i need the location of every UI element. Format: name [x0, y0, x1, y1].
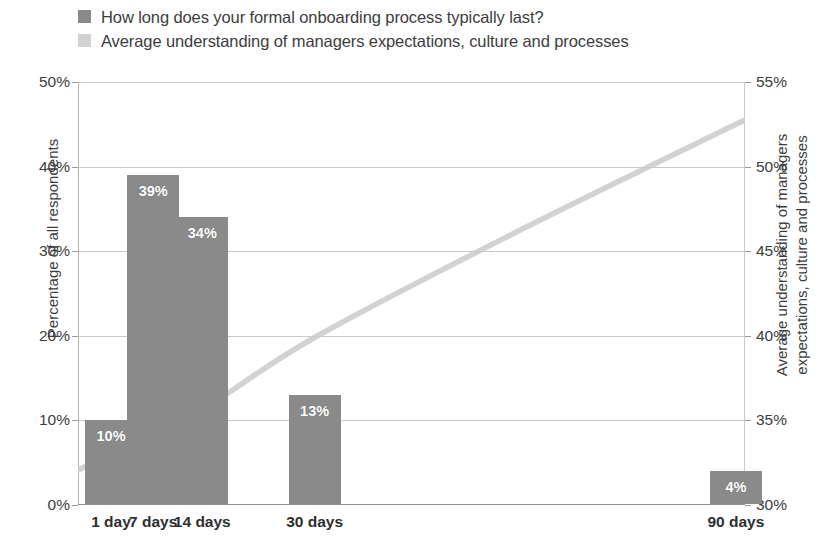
tickmark-right [745, 505, 751, 506]
gridline-left-50% [78, 82, 745, 83]
dual-axis-chart: How long does your formal onboarding pro… [0, 0, 837, 542]
tickmark-right [745, 420, 751, 421]
y-axis-right-tick-label: 35% [756, 412, 808, 428]
x-axis-ticks: 1 day7 days14 days30 days90 days [0, 513, 837, 537]
y-axis-right-tick-label: 50% [756, 159, 808, 175]
line-series-swatch-icon [78, 34, 91, 47]
y-axis-right-ticks: 30%35%40%45%50%55% [756, 0, 812, 542]
x-axis-tick-label: 14 days [174, 513, 231, 531]
y-axis-right-tick-label: 45% [756, 243, 808, 259]
y-axis-left-ticks: 0%10%20%30%40%50% [14, 0, 70, 542]
tickmark-right [745, 82, 751, 83]
tickmark-right [745, 336, 751, 337]
y-axis-right-tick-label: 30% [756, 497, 808, 513]
tickmark-left [72, 420, 78, 421]
y-axis-right-tick-label: 40% [756, 328, 808, 344]
x-axis-tick-label: 1 day [91, 513, 131, 531]
y-axis-right-tick-label: 55% [756, 74, 808, 90]
tickmark-right [745, 251, 751, 252]
y-axis-left-tick-label: 30% [18, 243, 70, 259]
chart-legend: How long does your formal onboarding pro… [78, 6, 629, 54]
tickmark-left [72, 336, 78, 337]
tickmark-left [72, 505, 78, 506]
x-axis-tick-label: 90 days [707, 513, 764, 531]
legend-label-line: Average understanding of managers expect… [101, 30, 629, 52]
legend-item-line[interactable]: Average understanding of managers expect… [78, 30, 629, 52]
tickmark-left [72, 167, 78, 168]
tickmark-left [72, 251, 78, 252]
bar-value-label: 34% [188, 225, 217, 241]
y-axis-left-tick-label: 20% [18, 328, 70, 344]
tickmark-left [72, 82, 78, 83]
x-axis-tick-label: 7 days [129, 513, 177, 531]
bar-value-label: 4% [725, 479, 746, 495]
bar-value-label: 39% [139, 183, 168, 199]
bar-value-label: 13% [300, 403, 329, 419]
y-axis-left-tick-label: 40% [18, 159, 70, 175]
y-axis-left-tick-label: 50% [18, 74, 70, 90]
bar-7-days[interactable] [127, 175, 179, 504]
bar-series-swatch-icon [78, 10, 91, 23]
y-axis-left-tick-label: 0% [18, 497, 70, 513]
bar-14-days[interactable] [176, 217, 228, 504]
x-axis-tick-label: 30 days [286, 513, 343, 531]
legend-item-bars[interactable]: How long does your formal onboarding pro… [78, 6, 629, 28]
y-axis-left-tick-label: 10% [18, 412, 70, 428]
gridline-left-40% [78, 167, 745, 168]
bar-value-label: 10% [97, 428, 126, 444]
plot-area: 10%39%34%13%4% [78, 82, 745, 505]
tickmark-right [745, 167, 751, 168]
legend-label-bars: How long does your formal onboarding pro… [101, 6, 543, 28]
